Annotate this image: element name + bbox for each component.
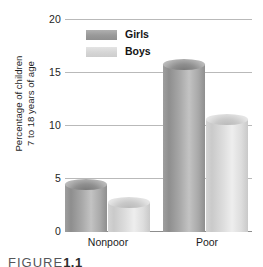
bar-body — [65, 184, 107, 232]
legend-label-girls: Girls — [125, 29, 149, 40]
gridline-20 — [65, 19, 252, 20]
bar-body — [163, 64, 205, 232]
legend-item-boys[interactable]: Boys — [86, 45, 176, 58]
legend: Girls Boys — [86, 28, 176, 62]
bar-body — [206, 119, 248, 232]
x-tick-label-nonpoor: Nonpoor — [59, 236, 157, 248]
y-axis-tick-labels: 20 15 10 5 0 — [30, 19, 61, 232]
y-tick-label-15: 15 — [35, 67, 61, 77]
bar-nonpoor-girls[interactable] — [65, 179, 107, 232]
y-tick-label-10: 10 — [35, 120, 61, 130]
bar-top-ellipse — [65, 179, 107, 190]
y-tick-label-0: 0 — [35, 226, 61, 236]
y-tick-label-5: 5 — [35, 173, 61, 183]
y-tick-label-20: 20 — [35, 14, 61, 24]
figure-container: Percentage of children 7 to 18 years of … — [0, 0, 263, 267]
legend-swatch-girls — [86, 30, 117, 40]
legend-item-girls[interactable]: Girls — [86, 28, 176, 41]
bar-nonpoor-boys[interactable] — [108, 197, 150, 232]
x-axis-tick-labels: Nonpoor Poor — [65, 236, 252, 252]
legend-label-boys: Boys — [125, 46, 151, 57]
figure-caption: FIGURE1.1 — [8, 256, 83, 267]
gridline-15 — [65, 72, 252, 73]
bar-poor-girls[interactable] — [163, 59, 205, 232]
figure-caption-prefix: FIGURE — [8, 255, 63, 267]
bar-poor-boys[interactable] — [206, 114, 248, 232]
figure-caption-number: 1.1 — [63, 255, 83, 267]
x-tick-label-poor: Poor — [158, 236, 256, 248]
y-axis-title-line-1: Percentage of children — [13, 19, 25, 189]
bar-top-ellipse — [108, 197, 150, 208]
legend-swatch-boys — [86, 47, 117, 57]
